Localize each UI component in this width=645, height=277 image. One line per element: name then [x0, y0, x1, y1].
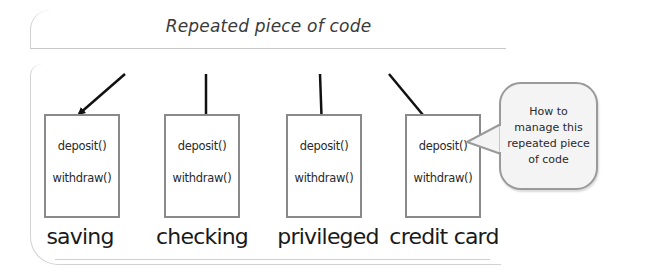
- callout-line: manage this: [501, 120, 596, 136]
- diagram: Repeated piece of code deposit() withdra…: [0, 0, 645, 277]
- callout-bubble: How to manage this repeated piece of cod…: [499, 82, 598, 190]
- callout-line: How to: [501, 104, 596, 120]
- callout-text: How to manage this repeated piece of cod…: [501, 104, 596, 168]
- callout-line: repeated piece: [501, 136, 596, 152]
- callout-line: of code: [501, 152, 596, 168]
